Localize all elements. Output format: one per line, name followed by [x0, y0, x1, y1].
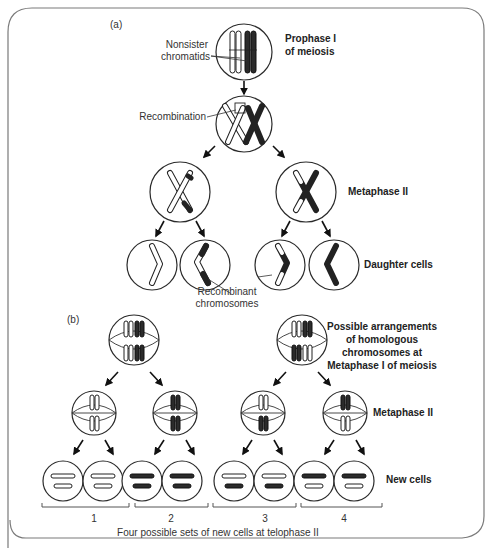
arrow: [318, 372, 330, 385]
meiosis-diagram: (a) Nonsister chromatids Prophase I of m…: [0, 0, 492, 551]
arrow: [282, 221, 290, 236]
arrow: [274, 440, 282, 454]
metaphase-b-label: Metaphase II: [373, 407, 433, 418]
arrow: [106, 372, 118, 385]
arrangements-label-2: of homologous: [346, 334, 419, 345]
new-cell-3b: [254, 461, 294, 501]
arrow: [196, 221, 204, 236]
arrow: [74, 440, 83, 454]
daughter-cell-3: [255, 240, 305, 290]
arrow: [274, 372, 286, 385]
metaphase-ii-cell-3: [241, 391, 285, 435]
arrow: [356, 440, 364, 454]
new-cell-2b: [162, 461, 202, 501]
daughter-cell-2: [180, 240, 230, 290]
arrow-right: [273, 146, 284, 157]
arrow: [325, 440, 334, 454]
set-number-4: 4: [341, 513, 347, 524]
panel-b-label: (b): [67, 314, 79, 325]
caption: Four possible sets of new cells at telop…: [117, 527, 319, 538]
metaphase-i-cell-right: [277, 315, 327, 365]
new-cell-2a: [122, 461, 162, 501]
daughter-cell-1: [127, 240, 177, 290]
set-number-1: 1: [91, 513, 97, 524]
recombinant-label-2: chromosomes: [196, 298, 259, 309]
metaphase-ii-cell-2: [153, 391, 197, 435]
daughter-cell-4: [309, 240, 359, 290]
metaphase-cell-left: [150, 162, 210, 222]
set-bracket-4: [301, 503, 382, 507]
prophase-label-2: of meiosis: [285, 46, 335, 57]
arrow: [243, 440, 252, 454]
set-bracket-3: [213, 503, 296, 507]
arrow-left: [204, 146, 215, 157]
prophase-label-1: Prophase I: [285, 33, 336, 44]
daughter-label: Daughter cells: [364, 259, 433, 270]
recombinant-label-1: Recombinant: [198, 286, 257, 297]
arrow: [155, 440, 164, 454]
metaphase-i-cell-left: [109, 315, 159, 365]
panel-a-label: (a): [110, 19, 122, 30]
metaphase-ii-cell-1: [72, 391, 116, 435]
arrangements-label-1: Possible arrangements: [327, 321, 437, 332]
set-bracket-1: [42, 503, 129, 507]
arrow: [322, 221, 330, 236]
arrangements-label-4: Metaphase I of meiosis: [327, 360, 437, 371]
nonsister-label-1: Nonsister: [166, 39, 209, 50]
prophase-cell: [216, 24, 272, 80]
new-cell-1b: [83, 461, 123, 501]
new-cells-label: New cells: [386, 474, 432, 485]
nonsister-label-2: chromatids: [161, 51, 210, 62]
recombination-cell: [216, 96, 272, 152]
metaphase-a-label: Metaphase II: [348, 186, 408, 197]
set-number-2: 2: [168, 513, 174, 524]
arrangements-label-3: chromosomes at: [342, 347, 423, 358]
arrow: [156, 221, 164, 236]
set-number-3: 3: [262, 513, 268, 524]
new-cell-3a: [214, 461, 254, 501]
new-cell-1a: [43, 461, 83, 501]
arrow: [150, 372, 162, 385]
new-cell-4b: [334, 461, 374, 501]
recombination-label: Recombination: [139, 111, 206, 122]
new-cell-4a: [294, 461, 334, 501]
metaphase-cell-right: [276, 162, 336, 222]
arrow: [186, 440, 194, 454]
set-bracket-2: [135, 503, 208, 507]
arrow: [105, 440, 113, 454]
metaphase-ii-cell-4: [323, 391, 367, 435]
